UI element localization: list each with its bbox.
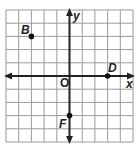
point-b-label: B <box>21 23 30 37</box>
point-f-label: F <box>59 117 67 131</box>
y-axis-up-arrow-icon <box>66 8 73 16</box>
y-axis-down-arrow-icon <box>66 136 73 144</box>
y-axis-label: y <box>72 9 81 23</box>
x-axis-left-arrow-icon <box>4 73 12 80</box>
coordinate-plane: x y O B D F <box>0 0 139 146</box>
origin-label: O <box>60 76 69 90</box>
point-d-label: D <box>108 61 117 75</box>
point-f <box>67 113 73 119</box>
x-axis-label: x <box>125 77 134 91</box>
